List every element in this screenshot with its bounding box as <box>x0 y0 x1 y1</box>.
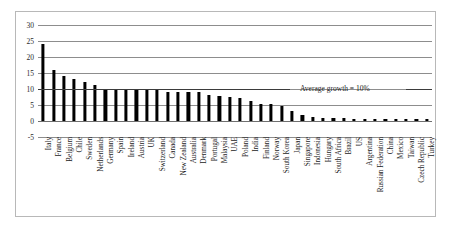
bar-rect <box>270 104 273 121</box>
bar <box>422 25 432 137</box>
category-label-slot: Netherlands <box>90 137 100 217</box>
bar <box>411 25 421 137</box>
bar-rect <box>218 96 221 121</box>
bar <box>214 25 224 137</box>
bar <box>183 25 193 137</box>
category-label-slot: UAE <box>225 137 235 217</box>
bar-rect <box>322 118 325 121</box>
category-label-slot: Argentina <box>359 137 369 217</box>
category-label: Turkey <box>429 137 436 158</box>
y-tick-label-5: 5 <box>30 102 34 110</box>
bar <box>287 25 297 137</box>
y-tick-label-20: 20 <box>27 54 35 62</box>
bar <box>235 25 245 137</box>
category-label-slot: Russian Federation <box>370 137 380 217</box>
bar <box>142 25 152 137</box>
category-label-slot: South Korea <box>276 137 286 217</box>
y-tick-label--5: -5 <box>28 134 34 142</box>
bar <box>318 25 328 137</box>
bar <box>266 25 276 137</box>
category-label-slot: New Zealand <box>173 137 183 217</box>
bar <box>131 25 141 137</box>
bar-rect <box>176 92 179 121</box>
category-label-slot: Indonesia <box>308 137 318 217</box>
y-tick-label-30: 30 <box>27 22 35 30</box>
bar-rect <box>42 44 45 121</box>
category-label-slot: Belgium <box>59 137 69 217</box>
bar-rect <box>363 119 366 121</box>
category-label-slot: Ireland <box>121 137 131 217</box>
bar <box>111 25 121 137</box>
category-label-slot: Japan <box>287 137 297 217</box>
category-label-slot: Germany <box>100 137 110 217</box>
bar-rect <box>52 70 55 121</box>
bar-rect <box>342 118 345 121</box>
category-label-slot: Italy <box>38 137 48 217</box>
bar-rect <box>187 92 190 121</box>
bar <box>121 25 131 137</box>
category-label-slot: Singapore <box>297 137 307 217</box>
bar <box>225 25 235 137</box>
category-label-slot: Finland <box>256 137 266 217</box>
category-label-slot: South Africa <box>328 137 338 217</box>
bar <box>79 25 89 137</box>
bar <box>328 25 338 137</box>
category-label-slot: China <box>380 137 390 217</box>
category-label-slot: Australia <box>183 137 193 217</box>
bar <box>370 25 380 137</box>
plot-area: 302520151050-5 Average growth = 10% <box>38 25 432 137</box>
average-growth-line-right <box>406 89 432 90</box>
bar-rect <box>404 119 407 121</box>
category-label-slot: Hungary <box>318 137 328 217</box>
category-label-slot: Norway <box>266 137 276 217</box>
category-label-slot: Spain <box>111 137 121 217</box>
bar-rect <box>197 92 200 121</box>
bar-rect <box>156 89 159 121</box>
bar <box>297 25 307 137</box>
category-label-slot: Turkey <box>422 137 432 217</box>
bar-rect <box>425 119 428 121</box>
category-label-slot: Malaysia <box>214 137 224 217</box>
bar <box>256 25 266 137</box>
category-label-slot: Czech Republic <box>411 137 421 217</box>
bar <box>349 25 359 137</box>
bar-rect <box>93 85 96 121</box>
bar-rect <box>239 98 242 121</box>
bar-rect <box>145 89 148 121</box>
bar <box>380 25 390 137</box>
bar-rect <box>73 79 76 121</box>
category-label-slot: Portugal <box>204 137 214 217</box>
bar-rect <box>332 118 335 121</box>
bar-rect <box>384 119 387 121</box>
y-tick-label-0: 0 <box>30 118 34 126</box>
bar <box>204 25 214 137</box>
bar-rect <box>135 89 138 121</box>
category-label-slot: France <box>48 137 58 217</box>
category-label-slot: Chile <box>69 137 79 217</box>
bar-rect <box>228 97 231 121</box>
average-growth-line-left <box>38 89 290 90</box>
category-label-slot: US <box>349 137 359 217</box>
bar-rect <box>373 119 376 121</box>
bar-rect <box>125 89 128 121</box>
bar <box>359 25 369 137</box>
bar <box>59 25 69 137</box>
bar <box>48 25 58 137</box>
category-label-slot: Canada <box>162 137 172 217</box>
bar <box>194 25 204 137</box>
bar-series <box>38 25 432 137</box>
y-tick-label-15: 15 <box>27 70 35 78</box>
bar <box>152 25 162 137</box>
category-label-slot: Poland <box>235 137 245 217</box>
bar-rect <box>166 92 169 121</box>
bar <box>401 25 411 137</box>
bar <box>173 25 183 137</box>
bar-rect <box>280 106 283 121</box>
y-tick-label-10: 10 <box>27 86 35 94</box>
bar <box>69 25 79 137</box>
y-tick-label-25: 25 <box>27 38 35 46</box>
bar-rect <box>62 76 65 121</box>
category-axis-labels: ItalyFranceBelgiumChileSwedenNetherlands… <box>38 137 432 217</box>
bar-rect <box>301 115 304 121</box>
category-label-slot: Switzerland <box>152 137 162 217</box>
